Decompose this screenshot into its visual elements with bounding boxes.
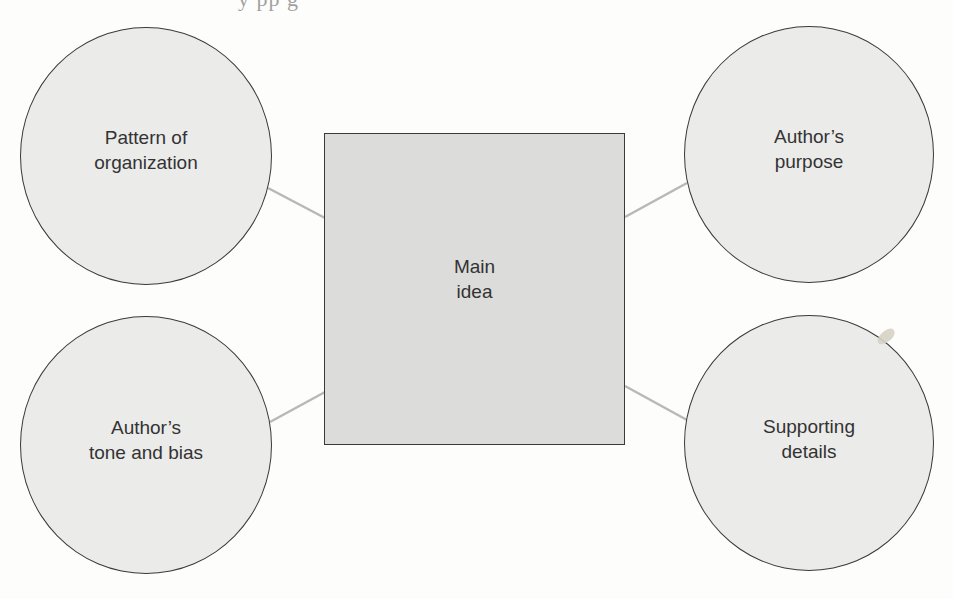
label-line-1: Supporting: [763, 414, 855, 439]
node-label: Supporting details: [763, 414, 855, 464]
node-main-idea: Main idea: [324, 133, 625, 445]
label-line-1: Author’s: [774, 124, 844, 149]
node-label: Author’s purpose: [774, 124, 844, 174]
label-line-2: details: [763, 439, 855, 464]
label-line-2: organization: [94, 150, 198, 175]
node-authors-tone-and-bias: Author’s tone and bias: [20, 316, 272, 574]
node-supporting-details: Supporting details: [684, 315, 934, 571]
label-line-1: Author’s: [89, 415, 203, 440]
connector-pattern-to-main: [268, 188, 325, 218]
connector-purpose-to-main: [625, 183, 687, 217]
label-line-2: tone and bias: [89, 440, 203, 465]
connector-tone-to-main: [270, 392, 325, 422]
node-label: Main idea: [454, 254, 495, 304]
label-line-2: idea: [454, 279, 495, 304]
label-line-1: Pattern of: [94, 125, 198, 150]
node-label: Pattern of organization: [94, 125, 198, 175]
label-line-2: purpose: [774, 149, 844, 174]
node-authors-purpose: Author’s purpose: [684, 26, 934, 283]
node-pattern-of-organization: Pattern of organization: [20, 27, 272, 285]
label-line-1: Main: [454, 254, 495, 279]
connector-details-to-main: [625, 386, 687, 420]
node-label: Author’s tone and bias: [89, 415, 203, 465]
